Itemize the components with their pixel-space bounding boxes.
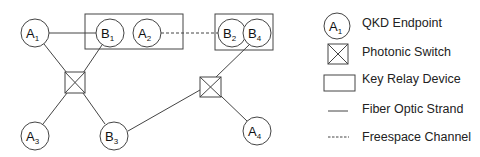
fiber-b3-s2 bbox=[128, 90, 200, 131]
node-a1: A1 bbox=[21, 19, 49, 47]
legend-item-photonic-switch: Photonic Switch bbox=[328, 44, 451, 64]
node-a4: A4 bbox=[243, 117, 271, 145]
node-b2: B2 bbox=[218, 19, 246, 47]
legend-label-photonic-switch: Photonic Switch bbox=[362, 45, 451, 59]
node-b1: B1 bbox=[96, 19, 124, 47]
legend-item-qkd-endpoint: A1 QKD Endpoint bbox=[324, 13, 442, 39]
legend-label-freespace-channel: Freespace Channel bbox=[362, 130, 471, 144]
legend-item-freespace-channel: Freespace Channel bbox=[328, 130, 471, 144]
fiber-s1-a3 bbox=[43, 93, 67, 124]
fiber-a1-s1 bbox=[44, 44, 67, 73]
key-relay-device-icon bbox=[324, 75, 355, 91]
photonic-switch-1 bbox=[65, 72, 85, 93]
node-b4: B4 bbox=[243, 19, 271, 47]
legend-label-qkd-endpoint: QKD Endpoint bbox=[362, 16, 442, 30]
legend-item-fiber-optic-strand: Fiber Optic Strand bbox=[328, 102, 463, 116]
photonic-switch-icon bbox=[328, 44, 348, 64]
qkd-network-diagram: A1 B1 A2 B2 B4 A3 B3 A4 A1 QKD Endpoint bbox=[0, 0, 480, 157]
legend-label-fiber-optic-strand: Fiber Optic Strand bbox=[362, 102, 463, 116]
legend-label-key-relay-device: Key Relay Device bbox=[362, 72, 461, 86]
legend-item-key-relay-device: Key Relay Device bbox=[324, 72, 461, 91]
qkd-endpoint-icon: A1 bbox=[324, 13, 350, 39]
node-b3: B3 bbox=[100, 122, 128, 150]
legend: A1 QKD Endpoint Photonic Switch Key Rela… bbox=[324, 13, 471, 144]
node-a2: A2 bbox=[133, 19, 161, 47]
fiber-s2-a4 bbox=[221, 96, 247, 121]
fiber-s1-b3 bbox=[83, 93, 105, 124]
photonic-switch-2 bbox=[200, 77, 221, 97]
node-a3: A3 bbox=[21, 122, 49, 150]
